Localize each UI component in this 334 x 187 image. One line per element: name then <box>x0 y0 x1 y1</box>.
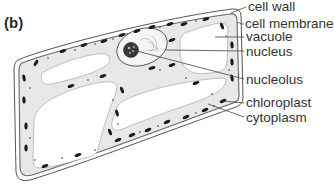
label-cytoplasm: cytoplasm <box>246 111 307 125</box>
label-chloroplast: chloroplast <box>246 96 311 110</box>
panel-label: (b) <box>4 14 23 31</box>
label-nucleus: nucleus <box>246 45 293 59</box>
leader-cell-membrane <box>237 23 244 24</box>
leader-cell-wall <box>231 7 246 13</box>
nucleolus <box>124 43 139 58</box>
label-vacuole: vacuole <box>246 30 293 44</box>
label-nucleolus: nucleolus <box>246 73 303 87</box>
label-cell-wall: cell wall <box>248 0 295 14</box>
